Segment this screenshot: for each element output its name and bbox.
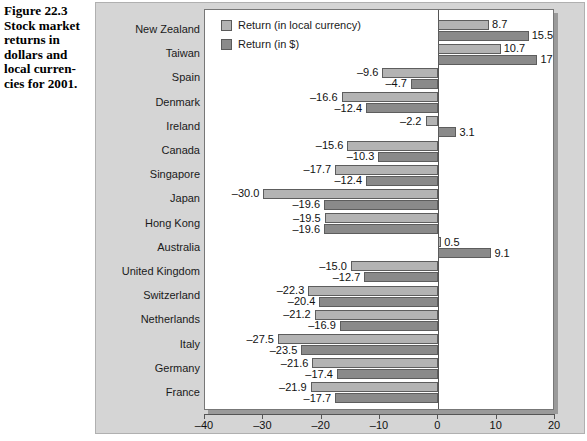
- bar-new-zealand-local: [438, 20, 489, 30]
- legend-label-usd: Return (in $): [238, 38, 299, 50]
- legend-swatch-usd: [221, 39, 232, 50]
- caption-line-5: local curren-: [4, 62, 92, 77]
- bar-value-netherlands-usd: –16.9: [308, 320, 336, 331]
- bar-ireland-usd: [438, 127, 456, 137]
- caption-line-3: returns in: [4, 33, 92, 48]
- bar-value-germany-usd: –17.4: [305, 369, 333, 380]
- bar-france-local: [311, 382, 439, 392]
- legend-item-local: Return (in local currency): [221, 17, 361, 33]
- bar-netherlands-local: [315, 310, 439, 320]
- category-label-japan: Japan: [95, 193, 200, 204]
- bar-japan-local: [263, 189, 438, 199]
- bar-value-canada-usd: –10.3: [347, 151, 375, 162]
- bar-taiwan-local: [438, 44, 500, 54]
- bar-australia-usd: [438, 248, 491, 258]
- bar-hong-kong-usd: [324, 224, 438, 234]
- category-label-ireland: Ireland: [95, 121, 200, 132]
- bar-denmark-usd: [366, 103, 438, 113]
- category-label-taiwan: Taiwan: [95, 48, 200, 59]
- bar-denmark-local: [342, 92, 439, 102]
- bar-value-singapore-usd: –12.4: [334, 175, 362, 186]
- legend-label-local: Return (in local currency): [238, 19, 361, 31]
- bar-france-usd: [335, 393, 438, 403]
- x-tick-label-0: 0: [434, 420, 440, 431]
- category-label-new-zealand: New Zealand: [95, 24, 200, 35]
- x-axis: –40–30–20–1001020: [204, 414, 554, 436]
- plot-shadow-right: [554, 13, 558, 414]
- chart-panel: New ZealandTaiwanSpainDenmarkIrelandCana…: [95, 2, 585, 434]
- bar-switzerland-usd: [319, 297, 438, 307]
- chart-legend: Return (in local currency) Return (in $): [221, 17, 361, 55]
- figure-caption: Figure 22.3 Stock market returns in doll…: [4, 4, 92, 92]
- bar-value-ireland-usd: 3.1: [459, 127, 474, 138]
- bar-value-australia-local: 0.5: [444, 237, 459, 248]
- category-label-spain: Spain: [95, 72, 200, 83]
- bar-value-spain-local: –9.6: [357, 67, 378, 78]
- category-label-netherlands: Netherlands: [95, 314, 200, 325]
- category-label-italy: Italy: [95, 339, 200, 350]
- bar-ireland-local: [426, 116, 439, 126]
- category-label-france: France: [95, 387, 200, 398]
- bar-canada-local: [347, 141, 438, 151]
- category-label-united-kingdom: United Kingdom: [95, 266, 200, 277]
- bar-value-hong-kong-local: –19.5: [293, 213, 321, 224]
- bar-value-canada-local: –15.6: [316, 140, 344, 151]
- x-tick-label--10: –10: [370, 420, 388, 431]
- bar-value-denmark-local: –16.6: [310, 92, 338, 103]
- bar-value-new-zealand-local: 8.7: [492, 19, 507, 30]
- bar-value-denmark-usd: –12.4: [334, 103, 362, 114]
- bar-value-italy-local: –27.5: [246, 334, 274, 345]
- bar-value-hong-kong-usd: –19.6: [292, 224, 320, 235]
- bar-value-italy-usd: –23.5: [270, 345, 298, 356]
- legend-item-usd: Return (in $): [221, 36, 361, 52]
- bar-italy-usd: [301, 345, 438, 355]
- bar-italy-local: [278, 334, 438, 344]
- bar-japan-usd: [324, 200, 438, 210]
- bar-united-kingdom-usd: [364, 272, 438, 282]
- bar-value-netherlands-local: –21.2: [283, 309, 311, 320]
- bar-value-france-local: –21.9: [279, 382, 307, 393]
- category-label-canada: Canada: [95, 145, 200, 156]
- x-tick-label--20: –20: [311, 420, 329, 431]
- category-label-germany: Germany: [95, 363, 200, 374]
- bar-value-ireland-local: –2.2: [400, 116, 421, 127]
- bar-hong-kong-local: [325, 213, 439, 223]
- bar-germany-local: [312, 358, 438, 368]
- x-tick-label--40: –40: [195, 420, 213, 431]
- zero-axis-line: [438, 10, 439, 409]
- legend-swatch-local: [221, 20, 232, 31]
- bar-value-taiwan-usd: 17: [541, 54, 553, 65]
- category-axis-labels: New ZealandTaiwanSpainDenmarkIrelandCana…: [96, 9, 200, 410]
- bar-united-kingdom-local: [351, 261, 439, 271]
- x-tick-label--30: –30: [253, 420, 271, 431]
- bar-value-japan-local: –30.0: [232, 188, 260, 199]
- category-label-switzerland: Switzerland: [95, 290, 200, 301]
- bar-germany-usd: [337, 369, 439, 379]
- caption-line-6: cies for 2001.: [4, 77, 92, 92]
- bar-new-zealand-usd: [438, 31, 528, 41]
- bar-canada-usd: [378, 152, 438, 162]
- bar-value-spain-usd: –4.7: [386, 78, 407, 89]
- bar-singapore-usd: [366, 176, 438, 186]
- category-label-hong-kong: Hong Kong: [95, 218, 200, 229]
- caption-line-4: dollars and: [4, 48, 92, 63]
- bar-value-germany-local: –21.6: [281, 358, 309, 369]
- bar-value-switzerland-usd: –20.4: [288, 296, 316, 307]
- bar-singapore-local: [335, 165, 438, 175]
- bar-value-singapore-local: –17.7: [304, 164, 332, 175]
- bar-australia-local: [438, 237, 441, 247]
- bar-value-taiwan-local: 10.7: [504, 43, 525, 54]
- bar-spain-usd: [411, 79, 438, 89]
- bar-value-france-usd: –17.7: [304, 393, 332, 404]
- bar-taiwan-usd: [438, 55, 537, 65]
- bar-value-united-kingdom-usd: –12.7: [333, 272, 361, 283]
- category-label-australia: Australia: [95, 242, 200, 253]
- caption-line-2: Stock market: [4, 19, 92, 34]
- x-tick-label-20: 20: [548, 420, 560, 431]
- category-label-denmark: Denmark: [95, 97, 200, 108]
- category-label-singapore: Singapore: [95, 169, 200, 180]
- bar-value-japan-usd: –19.6: [292, 199, 320, 210]
- bar-netherlands-usd: [340, 321, 439, 331]
- caption-line-1: Figure 22.3: [4, 4, 92, 19]
- plot-area: 8.715.510.717–9.6–4.7–16.6–12.4–2.23.1–1…: [204, 9, 554, 410]
